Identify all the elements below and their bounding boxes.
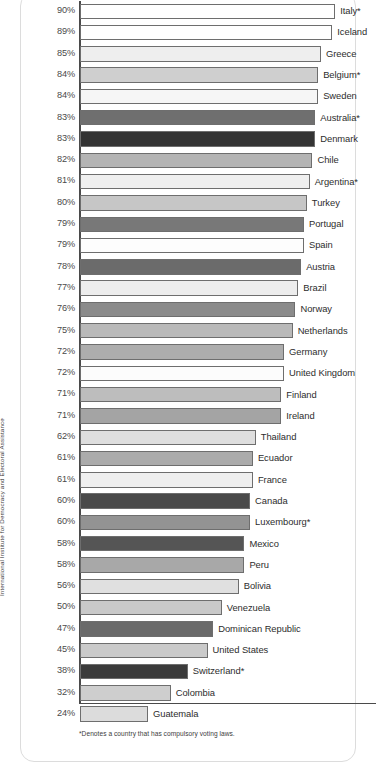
bar-row: 89%Iceland	[41, 22, 380, 43]
bar	[80, 515, 250, 530]
bar-value-label: 61%	[41, 474, 75, 484]
bar-row: 45%United States	[41, 640, 380, 661]
bar-value-label: 79%	[41, 239, 75, 249]
bar	[80, 153, 312, 168]
bar-value-label: 83%	[41, 133, 75, 143]
bar-row: 60%Luxembourg*	[41, 512, 380, 533]
bar-row: 50%Venezuela	[41, 597, 380, 618]
bar-category-label: Australia*	[320, 112, 360, 123]
bar-value-label: 80%	[41, 197, 75, 207]
bar-category-label: Turkey	[312, 197, 340, 208]
bar-value-label: 75%	[41, 325, 75, 335]
bar-row: 32%Colombia	[41, 683, 380, 704]
bar-row: 82%Chile	[41, 150, 380, 171]
bar	[80, 451, 253, 466]
bar-value-label: 32%	[41, 687, 75, 697]
bar-row: 62%Thailand	[41, 427, 380, 448]
bar-value-label: 78%	[41, 261, 75, 271]
bar-row: 84%Sweden	[41, 86, 380, 107]
bar-row: 81%Argentina*	[41, 171, 380, 192]
bar-row: 38%Switzerland*	[41, 661, 380, 682]
bar-row: 60%Canada	[41, 491, 380, 512]
bar-value-label: 56%	[41, 580, 75, 590]
bar-category-label: Colombia	[176, 687, 215, 698]
bar-value-label: 90%	[41, 5, 75, 15]
bar-category-label: Netherlands	[298, 325, 348, 336]
bar	[80, 110, 315, 125]
bar	[80, 131, 315, 146]
bar-category-label: Finland	[286, 389, 316, 400]
bar-row: 58%Mexico	[41, 534, 380, 555]
bar-category-label: Luxembourg*	[255, 516, 310, 527]
bar-row: 61%France	[41, 470, 380, 491]
bar-row: 24%Guatemala	[41, 704, 380, 725]
bar-value-label: 84%	[41, 90, 75, 100]
bar-value-label: 81%	[41, 175, 75, 185]
bar-value-label: 85%	[41, 48, 75, 58]
bar-value-label: 72%	[41, 346, 75, 356]
bar-category-label: Ecuador	[258, 452, 293, 463]
bar-category-label: Sweden	[323, 90, 357, 101]
bar-row: 85%Greece	[41, 44, 380, 65]
bar	[80, 67, 318, 82]
bar-category-label: Chile	[317, 154, 338, 165]
bar-value-label: 47%	[41, 623, 75, 633]
bar-category-label: Portugal	[309, 218, 344, 229]
bar-category-label: Brazil	[303, 282, 326, 293]
bar-value-label: 50%	[41, 601, 75, 611]
bar-value-label: 24%	[41, 708, 75, 718]
bar-category-label: Dominican Republic	[218, 623, 300, 634]
bar-row: 47%Dominican Republic	[41, 619, 380, 640]
bar-row: 71%Ireland	[41, 406, 380, 427]
bar-row: 77%Brazil	[41, 278, 380, 299]
bar	[80, 217, 304, 232]
bar-value-label: 71%	[41, 388, 75, 398]
bar	[80, 706, 148, 721]
bar-value-label: 83%	[41, 112, 75, 122]
bar	[80, 685, 171, 700]
bar-row: 72%United Kingdom	[41, 363, 380, 384]
bar-row: 79%Portugal	[41, 214, 380, 235]
bar-value-label: 58%	[41, 559, 75, 569]
bar-category-label: Italy*	[340, 5, 361, 16]
bar-row: 72%Germany	[41, 342, 380, 363]
bar	[80, 408, 281, 423]
bar-value-label: 60%	[41, 516, 75, 526]
bar-row: 80%Turkey	[41, 193, 380, 214]
bar-row: 83%Denmark	[41, 129, 380, 150]
bar	[80, 387, 281, 402]
bar-value-label: 38%	[41, 665, 75, 675]
bar	[80, 195, 307, 210]
bar-row: 58%Peru	[41, 555, 380, 576]
bar-value-label: 60%	[41, 495, 75, 505]
bar	[80, 579, 239, 594]
bar-value-label: 84%	[41, 69, 75, 79]
bar-category-label: Switzerland*	[193, 665, 245, 676]
bar	[80, 259, 301, 274]
bar-value-label: 71%	[41, 410, 75, 420]
bar-category-label: Iceland	[337, 26, 367, 37]
x-axis-baseline	[79, 703, 376, 704]
bar-category-label: Argentina*	[315, 176, 358, 187]
source-attribution-label: International Institute for Democracy an…	[0, 436, 7, 596]
bar-row: 78%Austria	[41, 257, 380, 278]
bar-row: 56%Bolivia	[41, 576, 380, 597]
bar-category-label: Spain	[309, 239, 333, 250]
bar-category-label: United Kingdom	[289, 367, 355, 378]
bar	[80, 174, 310, 189]
bar-row: 76%Norway	[41, 299, 380, 320]
bar-row: 83%Australia*	[41, 108, 380, 129]
bar	[80, 430, 256, 445]
bar	[80, 557, 244, 572]
bar-category-label: Belgium*	[323, 69, 360, 80]
bar-row: 79%Spain	[41, 235, 380, 256]
bar-category-label: France	[258, 474, 287, 485]
bar-value-label: 79%	[41, 218, 75, 228]
bar	[80, 238, 304, 253]
bar	[80, 536, 244, 551]
bar	[80, 621, 213, 636]
bar-value-label: 45%	[41, 644, 75, 654]
bar-value-label: 76%	[41, 303, 75, 313]
bar-category-label: Peru	[249, 559, 269, 570]
bar-category-label: Venezuela	[227, 602, 270, 613]
